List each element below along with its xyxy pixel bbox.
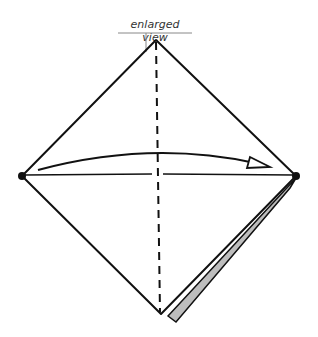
gray-flap-edge bbox=[168, 178, 296, 322]
right-reference-dot bbox=[292, 172, 300, 180]
horizontal-crease-right bbox=[163, 174, 294, 175]
diagram-canvas bbox=[0, 0, 318, 337]
arrow-head-icon bbox=[247, 157, 270, 168]
vertical-valley-fold-line bbox=[156, 42, 160, 312]
curved-fold-arrow bbox=[38, 153, 255, 170]
origami-diagram: enlarged view bbox=[0, 0, 318, 337]
horizontal-crease-left bbox=[24, 174, 152, 175]
left-reference-dot bbox=[18, 172, 26, 180]
